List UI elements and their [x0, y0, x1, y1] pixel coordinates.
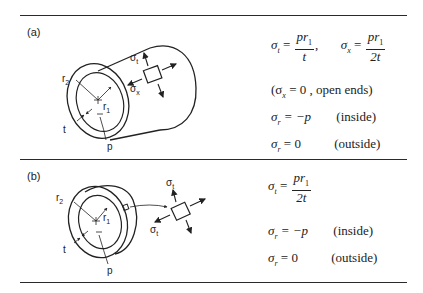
- eq-b-radial-outside: σr = 0 (outside): [268, 250, 377, 268]
- fraction-pr1-over-2t-b: pr12t: [292, 171, 312, 204]
- eq-b-hoop: σt = pr12t: [268, 171, 312, 204]
- eq-b-radial-inside: σr = −p (inside): [268, 223, 373, 241]
- label-r1-b: r1: [103, 212, 110, 225]
- fraction-pr1-over-t: pr1t: [295, 30, 315, 63]
- ring-figure: [61, 180, 205, 265]
- label-t-b: t: [63, 244, 66, 255]
- eq-a-radial-inside: σr = −p (inside): [271, 109, 376, 127]
- label-r2-b: r2: [56, 192, 63, 205]
- label-sigma-x-a: σx: [130, 83, 140, 96]
- label-t-a: t: [63, 124, 66, 135]
- label-r1-a: r1: [103, 101, 110, 114]
- label-p-a: p: [107, 141, 113, 152]
- label-sigma-t-left-b: σt: [150, 224, 158, 237]
- eq-a-open-ends: (σx = 0 , open ends): [271, 82, 373, 100]
- fraction-pr1-over-2t: pr12t: [366, 30, 386, 63]
- cylinder-figure: [58, 46, 196, 147]
- eq-a-hoop-and-axial: σt = pr1t, σx = pr12t: [271, 30, 386, 63]
- label-sigma-t-top-b: σt: [166, 177, 174, 190]
- eq-a-radial-outside: σr = 0 (outside): [271, 136, 380, 154]
- label-p-b: p: [107, 265, 113, 276]
- label-r2-a: r2: [62, 73, 69, 86]
